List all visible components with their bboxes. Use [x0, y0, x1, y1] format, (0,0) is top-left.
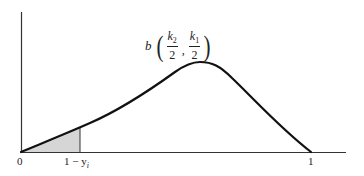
right-paren: ): [204, 31, 211, 61]
x-label-zero: 0: [17, 156, 23, 167]
x-label-one: 1: [308, 156, 314, 167]
separator: ,: [182, 43, 185, 58]
left-paren: (: [156, 31, 163, 61]
fraction-k1-over-2: k1 2: [189, 29, 200, 63]
function-name: b: [145, 38, 152, 54]
x-label-cutoff: 1 − yi: [64, 156, 89, 170]
fraction-k2-over-2: k2 2: [167, 29, 178, 63]
beta-density-plot: [0, 0, 364, 176]
distribution-label: b ( k2 2 , k1 2 ): [145, 28, 212, 64]
